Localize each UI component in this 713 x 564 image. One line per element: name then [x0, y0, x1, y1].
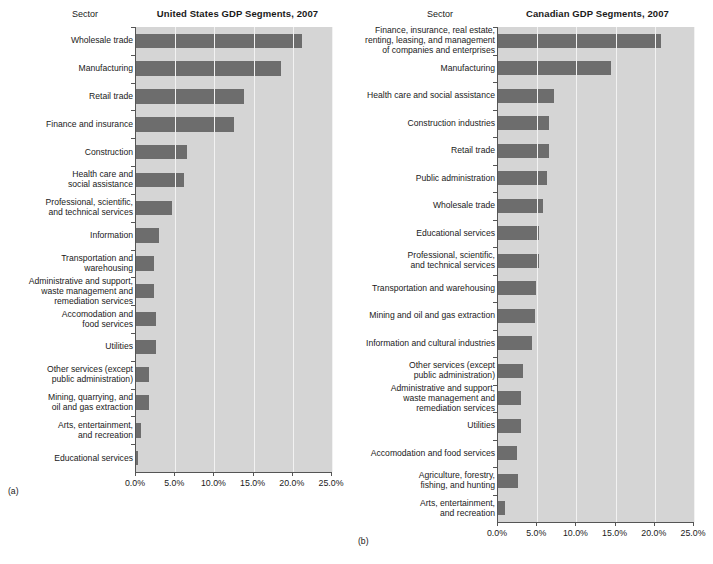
- bar-row: [498, 357, 694, 385]
- bar-row: [136, 277, 332, 305]
- bar-row: [498, 467, 694, 495]
- category-label: Mining and oil and gas extraction: [350, 310, 495, 320]
- bar: [498, 89, 554, 103]
- x-tickmark: [497, 522, 498, 526]
- gridline: [214, 27, 215, 472]
- bar: [498, 144, 549, 158]
- category-label: Finance, insurance, real estate,renting,…: [350, 25, 495, 55]
- category-label: Educational services: [350, 228, 495, 238]
- plot-area-canada: [497, 27, 694, 522]
- category-label-line: Health care and: [5, 169, 133, 179]
- category-label-line: social assistance: [5, 179, 133, 189]
- category-label: Manufacturing: [350, 63, 495, 73]
- bar-row: [136, 444, 332, 472]
- bar: [136, 312, 156, 326]
- category-label: Administrative and support,waste managem…: [5, 276, 133, 306]
- category-label-line: of companies and enterprises: [350, 45, 495, 55]
- category-label: Arts, entertainment,and recreation: [350, 498, 495, 518]
- chart-title-united-states: United States GDP Segments, 2007: [130, 8, 345, 19]
- bar: [136, 340, 156, 354]
- bar-row: [136, 27, 332, 55]
- category-label: Construction industries: [350, 118, 495, 128]
- y-tickmark: [493, 110, 497, 111]
- category-label: Wholesale trade: [5, 35, 133, 45]
- category-label-line: Educational services: [5, 453, 133, 463]
- y-tickmark: [131, 83, 135, 84]
- category-label-line: Wholesale trade: [5, 35, 133, 45]
- category-label-line: Retail trade: [350, 145, 495, 155]
- category-label-line: Administrative and support,: [5, 276, 133, 286]
- bar: [498, 391, 521, 405]
- category-label: Agriculture, forestry,fishing, and hunti…: [350, 470, 495, 490]
- category-label: Retail trade: [5, 91, 133, 101]
- bar: [136, 228, 159, 242]
- bar-row: [498, 82, 694, 110]
- y-tickmark: [493, 192, 497, 193]
- bar: [136, 256, 154, 270]
- bar-row: [498, 412, 694, 440]
- category-label: Accomodation andfood services: [5, 309, 133, 329]
- gridline: [175, 27, 176, 472]
- y-tickmark: [131, 305, 135, 306]
- gridline: [254, 27, 255, 472]
- category-label-line: Health care and social assistance: [350, 90, 495, 100]
- bar: [136, 284, 154, 298]
- category-label-line: Arts, entertainment,: [350, 498, 495, 508]
- gdp-segments-figure: United States GDP Segments, 2007 Sector …: [0, 0, 713, 564]
- category-label: Professional, scientific,and technical s…: [350, 250, 495, 270]
- bar-row: [136, 83, 332, 111]
- category-label-line: Administrative and support,: [350, 383, 495, 393]
- category-label-line: Utilities: [350, 420, 495, 430]
- category-label-line: oil and gas extraction: [5, 402, 133, 412]
- bar: [498, 336, 532, 350]
- category-label-line: Manufacturing: [5, 63, 133, 73]
- bar: [498, 309, 535, 323]
- category-label-line: Information: [5, 230, 133, 240]
- y-tickmark: [131, 444, 135, 445]
- bar-row: [136, 222, 332, 250]
- category-label-line: public administration): [350, 370, 495, 380]
- category-label-line: Construction: [5, 147, 133, 157]
- panel-caption-b: (b): [358, 536, 369, 546]
- plot-area-united-states: [135, 27, 332, 472]
- y-tickmark: [131, 250, 135, 251]
- sector-column-header-b: Sector: [390, 9, 490, 19]
- y-tickmark: [131, 194, 135, 195]
- category-label: Public administration: [350, 173, 495, 183]
- bar: [136, 34, 302, 48]
- category-label: Utilities: [5, 341, 133, 351]
- category-label-line: warehousing: [5, 263, 133, 273]
- category-label-line: and technical services: [5, 207, 133, 217]
- category-label: Mining, quarrying, andoil and gas extrac…: [5, 392, 133, 412]
- bar: [136, 117, 234, 131]
- bar: [498, 501, 505, 515]
- bar-row: [498, 247, 694, 275]
- bar-row: [498, 165, 694, 193]
- category-label: Construction: [5, 147, 133, 157]
- y-tickmark: [131, 389, 135, 390]
- category-label-line: Professional, scientific,: [5, 197, 133, 207]
- bar-row: [136, 55, 332, 83]
- y-tickmark: [493, 467, 497, 468]
- bar-row: [498, 220, 694, 248]
- gridline: [694, 27, 695, 522]
- panel-caption-a: (a): [8, 486, 19, 496]
- category-label-line: Accomodation and food services: [350, 448, 495, 458]
- category-label-line: Transportation and warehousing: [350, 283, 495, 293]
- category-label: Utilities: [350, 420, 495, 430]
- category-label-line: waste management and: [350, 393, 495, 403]
- y-tickmark: [493, 165, 497, 166]
- bar-row: [136, 110, 332, 138]
- bar-row: [498, 55, 694, 83]
- bar-row: [498, 27, 694, 55]
- category-label: Retail trade: [350, 145, 495, 155]
- category-label-line: Professional, scientific,: [350, 250, 495, 260]
- panel-canada: Canadian GDP Segments, 2007 Sector Finan…: [350, 0, 713, 564]
- x-tickmark: [292, 472, 293, 476]
- bar: [498, 254, 539, 268]
- x-tickmark: [693, 522, 694, 526]
- category-label-line: Construction industries: [350, 118, 495, 128]
- bar: [136, 145, 187, 159]
- y-tickmark: [493, 247, 497, 248]
- x-tickmark: [575, 522, 576, 526]
